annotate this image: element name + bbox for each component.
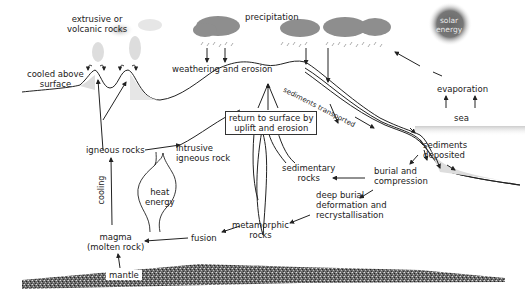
energy-text-2: energy — [145, 197, 175, 207]
intrusive-text-2: igneous rock — [176, 153, 230, 163]
cooled-label: cooled above surface — [27, 69, 84, 89]
extrusive-label: extrusive or volcanic rocks — [67, 14, 127, 34]
magma-text-2: (molten rock) — [87, 242, 144, 252]
deep-burial-text-2: deformation and — [316, 200, 387, 210]
deep-burial-label: deep burial deformation and recrystallis… — [316, 190, 387, 220]
rock-cycle-diagram: extrusive or volcanic rocks cooled above… — [0, 0, 525, 297]
mantle-label: mantle — [106, 270, 142, 280]
magma-label: magma (molten rock) — [87, 232, 144, 252]
metamorphic-text: metamorphic — [232, 220, 289, 230]
igneous-rocks-label: igneous rocks — [86, 145, 145, 155]
rain-icon — [201, 42, 382, 47]
cooled-text-2: surface — [27, 79, 84, 89]
sea-label: sea — [454, 113, 469, 123]
sediments-deposited-text-2: deposited — [423, 150, 467, 160]
return-surface-text: return to surface by — [229, 113, 313, 123]
deep-burial-text: deep burial — [316, 190, 387, 200]
sediments-deposited-text: sediments — [423, 140, 467, 150]
energy-text: energy — [436, 25, 462, 34]
cooled-text: cooled above — [27, 69, 84, 79]
intrusive-text: intrusive — [176, 143, 230, 153]
metamorphic-label: metamorphic rocks — [232, 220, 289, 240]
sedimentary-text-2: rocks — [282, 173, 335, 183]
evaporation-label: evaporation — [437, 84, 488, 94]
burial-label: burial and compression — [374, 166, 428, 186]
extrusive-text: extrusive or — [67, 14, 127, 24]
heat-text: heat — [145, 187, 175, 197]
sea-surface — [415, 126, 525, 136]
cooling-label: cooling — [97, 176, 107, 205]
precipitation-label: precipitation — [245, 12, 299, 22]
mantle-layer — [22, 264, 505, 289]
intrusive-label: intrusive igneous rock — [176, 143, 230, 163]
solar-text: solar — [436, 16, 462, 25]
burial-text: burial and — [374, 166, 428, 176]
sedimentary-text: sedimentary — [282, 163, 335, 173]
return-surface-text-2: uplift and erosion — [229, 123, 313, 133]
deep-burial-text-3: recrystallisation — [316, 210, 387, 220]
fusion-label: fusion — [191, 233, 217, 243]
extrusive-text-2: volcanic rocks — [67, 24, 127, 34]
sedimentary-rocks-label: sedimentary rocks — [282, 163, 335, 183]
heat-energy-label: heat energy — [145, 187, 175, 207]
burial-text-2: compression — [374, 176, 428, 186]
return-surface-box: return to surface by uplift and erosion — [225, 111, 317, 135]
sediments-deposited-label: sediments deposited — [423, 140, 467, 160]
magma-text: magma — [87, 232, 144, 242]
metamorphic-text-2: rocks — [232, 230, 289, 240]
weathering-label: weathering and erosion — [172, 64, 273, 74]
solar-energy-label: solar energy — [436, 16, 462, 34]
